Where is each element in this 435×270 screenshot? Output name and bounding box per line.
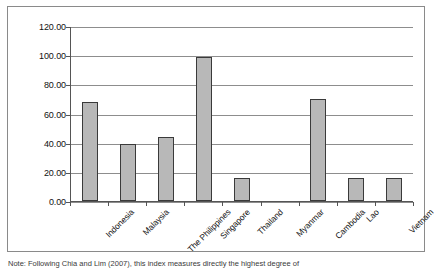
bar-slot [185, 27, 223, 201]
x-axis-tick-label: Malaysia [141, 207, 171, 237]
x-axis-tick-label: Myanmar [294, 207, 326, 239]
x-axis-tick-label: Vietnam [407, 207, 435, 236]
bar-series [71, 27, 413, 201]
x-axis-tick-mark [261, 202, 262, 206]
bar-indonesia [82, 102, 98, 201]
x-axis-tick-mark [184, 202, 185, 206]
x-axis-tick-mark [146, 202, 147, 206]
y-axis-tick-label: 120.00 [8, 22, 66, 32]
bar-cambodia [310, 99, 326, 201]
y-axis-labels: 0.0020.0040.0060.0080.00100.00120.00 [8, 27, 66, 202]
y-axis-tick-label: 100.00 [8, 51, 66, 61]
bar-slot [375, 27, 413, 201]
bar-slot [337, 27, 375, 201]
x-axis-tick-mark [375, 202, 376, 206]
x-axis-tick-mark [108, 202, 109, 206]
x-axis-tick-label: Thailand [255, 207, 285, 237]
bar-slot [261, 27, 299, 201]
bar-singapore [196, 57, 212, 201]
plot-area [70, 27, 413, 202]
x-axis-tick-mark [299, 202, 300, 206]
bar-the-philippines [158, 137, 174, 201]
y-axis-tick-label: 0.00 [8, 197, 66, 207]
chart-footnote: Note: Following Chia and Lim (2007), thi… [8, 259, 428, 268]
y-axis-tick-label: 80.00 [8, 80, 66, 90]
bar-thailand [234, 178, 250, 201]
x-axis-tick-label: Lao [364, 207, 381, 224]
bar-vietnam [386, 178, 402, 201]
x-axis-tick-mark [413, 202, 414, 206]
bar-slot [223, 27, 261, 201]
x-axis-tick-mark [70, 202, 71, 206]
chart-container: 0.0020.0040.0060.0080.00100.00120.00 Ind… [7, 6, 425, 252]
x-axis-labels: IndonesiaMalaysiaThe PhilippinesSingapor… [70, 207, 413, 253]
x-axis-tick-mark [337, 202, 338, 206]
y-axis-tick-label: 20.00 [8, 168, 66, 178]
y-axis-tick-label: 60.00 [8, 110, 66, 120]
x-axis-tick-label: Cambodia [333, 207, 367, 241]
bar-lao [348, 178, 364, 201]
x-axis-tick-label: Indonesia [104, 207, 137, 240]
x-axis-tick-mark [222, 202, 223, 206]
bar-slot [147, 27, 185, 201]
bar-slot [299, 27, 337, 201]
bar-slot [109, 27, 147, 201]
y-axis-tick-label: 40.00 [8, 139, 66, 149]
bar-malaysia [120, 144, 136, 201]
bar-slot [71, 27, 109, 201]
